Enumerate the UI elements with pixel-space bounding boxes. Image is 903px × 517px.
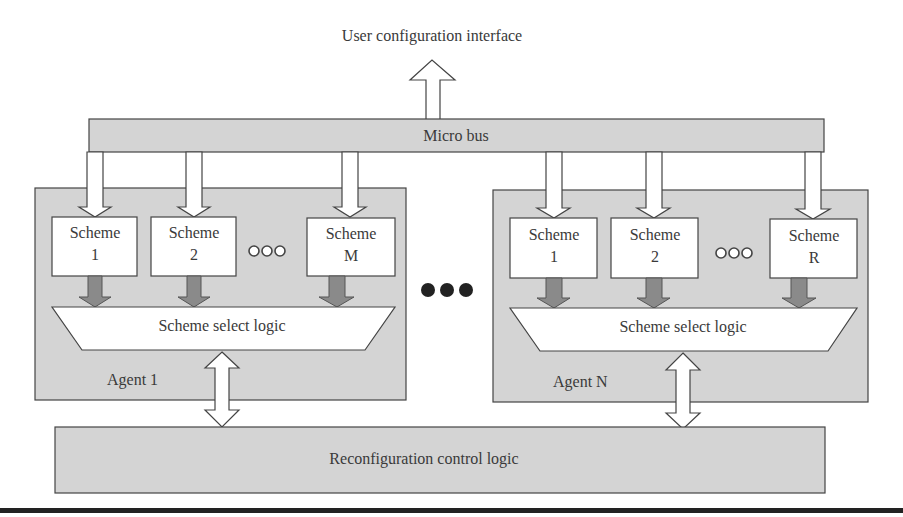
- scheme-index: 2: [651, 248, 659, 266]
- user-config-interface-label: User configuration interface: [342, 27, 522, 45]
- micro-bus-label: Micro bus: [423, 127, 488, 145]
- reconfiguration-control-label: Reconfiguration control logic: [329, 450, 518, 468]
- select-logic-label: Scheme select logic: [619, 318, 746, 336]
- scheme-index: 1: [91, 246, 99, 264]
- scheme-label: Scheme: [169, 224, 220, 242]
- scheme-label: Scheme: [70, 224, 121, 242]
- scheme-label: Scheme: [789, 227, 840, 245]
- scheme-index: 1: [550, 248, 558, 266]
- scheme-label: Scheme: [326, 225, 377, 243]
- agent-ellipsis-icon: [421, 283, 473, 297]
- scheme-index: M: [344, 247, 358, 265]
- scheme-label: Scheme: [630, 226, 681, 244]
- scheme-label: Scheme: [529, 226, 580, 244]
- select-logic-label: Scheme select logic: [158, 317, 285, 335]
- scheme-index: 2: [190, 246, 198, 264]
- up-arrow-icon: [410, 60, 455, 120]
- scheme-index: R: [809, 249, 820, 267]
- bottom-rule: [0, 508, 903, 513]
- agent-n-label: Agent N: [553, 373, 608, 391]
- diagram-canvas: [0, 0, 903, 517]
- agent-1-label: Agent 1: [107, 371, 158, 389]
